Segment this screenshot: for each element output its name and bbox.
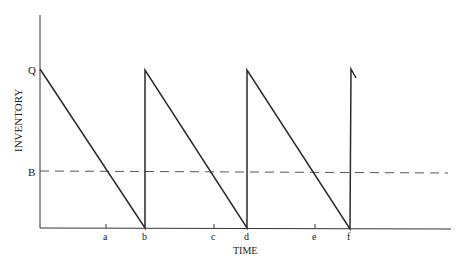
y-axis-label: INVENTORY: [12, 89, 24, 152]
inventory-sawtooth-diagram: Q B INVENTORY a b c d e f TIME: [0, 0, 462, 265]
x-axis-label: TIME: [233, 245, 257, 256]
x-tick-d: d: [244, 231, 249, 242]
b-level-label: B: [28, 166, 35, 178]
x-axis: [40, 228, 451, 229]
x-tick-c: c: [211, 231, 216, 242]
x-tick-f: f: [347, 231, 351, 242]
x-tick-e: e: [312, 231, 317, 242]
x-tick-b: b: [142, 231, 147, 242]
x-tick-a: a: [103, 231, 108, 242]
inventory-sawtooth: [40, 69, 356, 229]
q-label: Q: [28, 64, 36, 76]
safety-stock-line: [40, 171, 448, 173]
